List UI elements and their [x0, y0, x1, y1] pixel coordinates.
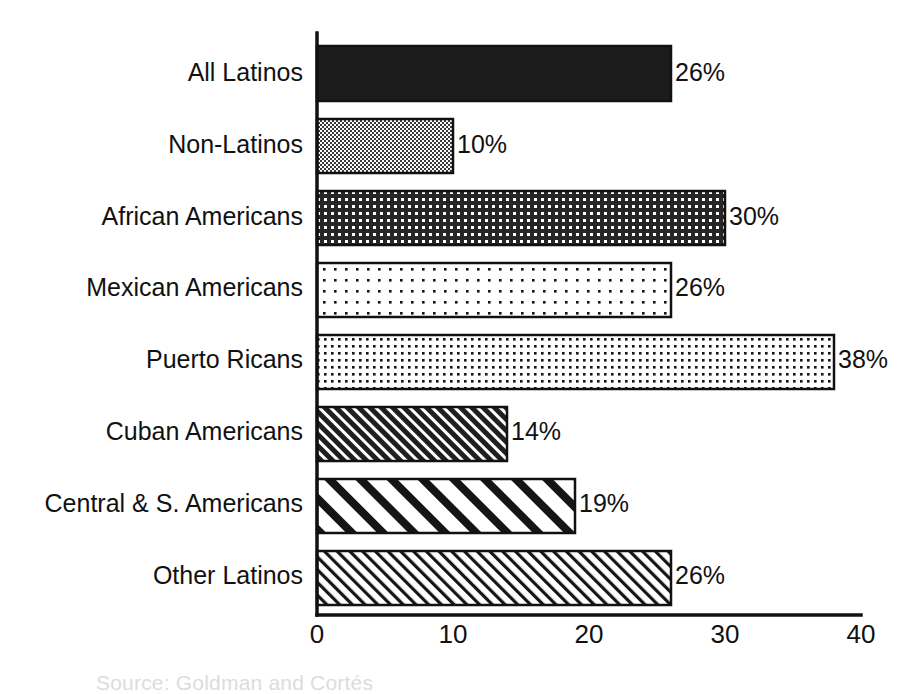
bar-non-latinos — [317, 119, 453, 173]
bar-puerto-ricans — [317, 335, 834, 389]
x-tick-label-2: 20 — [575, 619, 604, 649]
y-axis-label-0: All Latinos — [188, 58, 303, 86]
value-label-6: 19% — [579, 489, 629, 517]
value-label-3: 26% — [675, 273, 725, 301]
value-label-2: 30% — [729, 202, 779, 230]
x-tick-label-4: 40 — [847, 619, 876, 649]
y-axis-label-7: Other Latinos — [153, 561, 303, 589]
value-label-7: 26% — [675, 561, 725, 589]
value-label-1: 10% — [457, 130, 507, 158]
bar-central-s-americans — [317, 479, 575, 533]
bar-series — [317, 46, 834, 605]
y-axis-label-3: Mexican Americans — [86, 273, 303, 301]
x-tick-label-3: 30 — [711, 619, 740, 649]
bar-other-latinos — [317, 551, 671, 605]
x-tick-label-0: 0 — [310, 619, 324, 649]
y-axis-label-2: African Americans — [102, 202, 303, 230]
value-label-4: 38% — [838, 345, 888, 373]
bar-all-latinos — [317, 46, 671, 101]
y-axis-label-1: Non-Latinos — [168, 130, 303, 158]
x-tick-label-1: 10 — [439, 619, 468, 649]
y-axis-category-labels: All Latinos Non-Latinos African American… — [45, 58, 303, 589]
value-label-5: 14% — [511, 417, 561, 445]
bar-cuban-americans — [317, 407, 507, 461]
y-axis-label-5: Cuban Americans — [106, 417, 303, 445]
bar-mexican-americans — [317, 263, 671, 317]
y-axis-label-4: Puerto Ricans — [146, 345, 303, 373]
chart-canvas: All Latinos Non-Latinos African American… — [0, 0, 918, 660]
bar-african-americans — [317, 191, 725, 245]
source-note: Source: Goldman and Cortés — [96, 671, 373, 694]
y-axis-label-6: Central & S. Americans — [45, 489, 303, 517]
value-label-0: 26% — [675, 58, 725, 86]
x-axis-tick-labels: 0 10 20 30 40 — [310, 619, 876, 649]
